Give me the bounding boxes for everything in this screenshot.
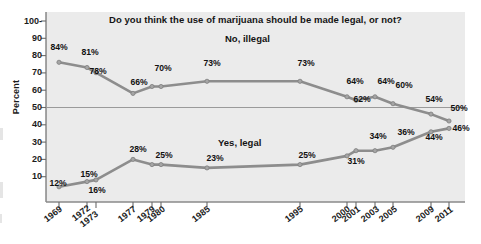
x-tick-label-2005: 2005 <box>377 204 399 224</box>
x-tick-label-1985: 1985 <box>190 204 212 224</box>
x-tick-label-1977: 1977 <box>116 204 138 224</box>
data-point-label: 44% <box>426 132 443 142</box>
x-tick-label-1969: 1969 <box>42 204 64 224</box>
data-point-label: 12% <box>50 178 67 188</box>
data-point-label: 62% <box>354 94 371 104</box>
data-point-label: 84% <box>51 42 68 52</box>
data-point-label: 60% <box>396 80 413 90</box>
chart-container: Do you think the use of marijuana should… <box>0 0 481 244</box>
data-point-label: 66% <box>131 77 148 87</box>
data-point-label: 31% <box>348 156 365 166</box>
data-point-label: 73% <box>204 58 221 68</box>
data-point-label: 81% <box>82 47 99 57</box>
data-point-label: 23% <box>207 153 224 163</box>
data-point-label: 73% <box>298 58 315 68</box>
data-point-label: 46% <box>453 123 470 133</box>
x-tick-label-2009: 2009 <box>414 204 436 224</box>
series-label-yes-legal: Yes, legal <box>218 137 261 148</box>
data-point-label: 28% <box>130 144 147 154</box>
x-tick-label-1995: 1995 <box>283 204 305 224</box>
data-point-label: 16% <box>89 185 106 195</box>
data-point-label: 50% <box>451 103 468 113</box>
x-tick-label-2011: 2011 <box>433 204 455 224</box>
data-point-label: 70% <box>155 63 172 73</box>
data-point-label: 54% <box>426 94 443 104</box>
data-point-label: 36% <box>398 127 415 137</box>
series-label-no-illegal: No, illegal <box>225 33 270 44</box>
data-point-label: 25% <box>156 150 173 160</box>
data-point-label: 64% <box>378 76 395 86</box>
data-point-label: 64% <box>347 76 364 86</box>
data-point-label: 15% <box>81 169 98 179</box>
data-point-label: 78% <box>90 66 107 76</box>
data-point-label: 34% <box>370 131 387 141</box>
data-point-label: 25% <box>299 150 316 160</box>
